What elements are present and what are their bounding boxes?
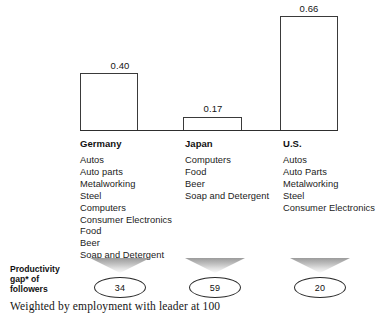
bar-germany [80, 73, 138, 131]
footnote-text: Weighted by employment with leader at 10… [10, 300, 220, 313]
industry-list-us: Autos Auto Parts Metalworking Steel Cons… [283, 155, 375, 215]
bar-value-us: 0.66 [285, 3, 333, 14]
gap-marker-us: 20 [285, 258, 355, 300]
gap-value-us: 20 [315, 283, 325, 293]
industry-list-japan: Computers Food Beer Soap and Detergent [185, 155, 269, 203]
bar-value-germany: 0.40 [96, 60, 144, 71]
bar-japan [183, 117, 242, 131]
gap-value-bubble-germany: 34 [94, 277, 146, 298]
column-title-japan: Japan [185, 138, 269, 149]
gap-label-line-1: Productivity [10, 264, 82, 274]
list-item: Computers [185, 155, 269, 167]
gap-value-bubble-japan: 59 [189, 277, 241, 298]
list-item: Steel [80, 191, 172, 203]
column-germany: Germany Autos Auto parts Metalworking St… [80, 138, 172, 262]
baseline-axis [80, 130, 338, 131]
gap-label-line-3: followers [10, 284, 82, 294]
list-item: Autos [283, 155, 375, 167]
gap-value-bubble-us: 20 [294, 277, 346, 298]
column-japan: Japan Computers Food Beer Soap and Deter… [185, 138, 269, 203]
list-item: Beer [80, 238, 172, 250]
list-item: Autos [80, 155, 172, 167]
list-item: Food [185, 167, 269, 179]
plot-area: 0.40 0.17 0.66 [0, 0, 381, 135]
gap-marker-japan: 59 [180, 258, 250, 300]
list-item: Beer [185, 179, 269, 191]
gap-marker-germany: 34 [85, 258, 155, 300]
list-item: Food [80, 226, 172, 238]
bar-value-japan: 0.17 [189, 103, 237, 114]
list-item: Consumer Electronics [80, 215, 172, 227]
list-item: Computers [80, 203, 172, 215]
list-item: Auto Parts [283, 167, 375, 179]
list-item: Steel [283, 191, 375, 203]
column-title-germany: Germany [80, 138, 172, 149]
gap-value-japan: 59 [210, 283, 220, 293]
gap-label-line-2: gap* of [10, 274, 82, 284]
list-item: Consumer Electronics [283, 203, 375, 215]
column-title-us: U.S. [283, 138, 375, 149]
bar-us [280, 16, 338, 131]
list-item: Auto parts [80, 167, 172, 179]
list-item: Metalworking [283, 179, 375, 191]
chart-figure: 0.40 0.17 0.66 Germany Autos Auto parts … [0, 0, 381, 318]
down-triangle-icon [185, 258, 245, 273]
down-triangle-icon [90, 258, 150, 273]
list-item: Metalworking [80, 179, 172, 191]
down-triangle-icon [290, 258, 350, 273]
column-us: U.S. Autos Auto Parts Metalworking Steel… [283, 138, 375, 215]
industry-list-germany: Autos Auto parts Metalworking Steel Comp… [80, 155, 172, 262]
gap-value-germany: 34 [115, 283, 125, 293]
list-item: Soap and Detergent [185, 191, 269, 203]
productivity-gap-label: Productivity gap* of followers [10, 264, 82, 295]
